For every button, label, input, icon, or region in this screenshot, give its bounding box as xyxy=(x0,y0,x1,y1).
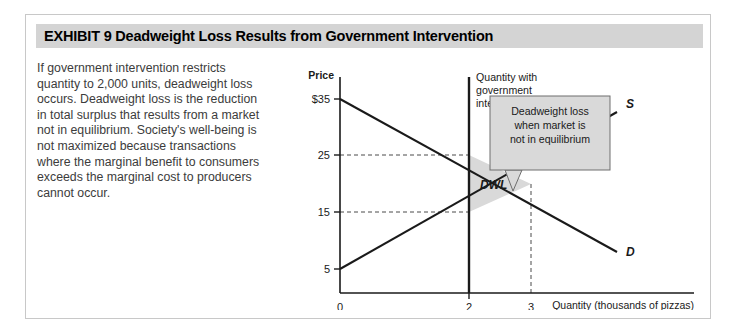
x-tick-label-0: 0 xyxy=(337,301,343,310)
supply-demand-chart: $35 25 15 5 0 2 3 Price Quantity with go… xyxy=(274,55,704,310)
quota-annotation-line2: government xyxy=(476,84,532,96)
demand-curve-label: D xyxy=(626,245,635,259)
exhibit-title-bar: EXHIBIT 9 Deadweight Loss Results from G… xyxy=(36,24,703,48)
exhibit-title: EXHIBIT 9 Deadweight Loss Results from G… xyxy=(36,28,493,44)
x-axis-title: Quantity (thousands of pizzas) xyxy=(552,299,694,310)
exhibit-panel: EXHIBIT 9 Deadweight Loss Results from G… xyxy=(25,14,711,319)
x-tick-label-2: 2 xyxy=(466,301,472,310)
callout-line1: Deadweight loss xyxy=(511,105,589,117)
exhibit-body-text: If government intervention restricts qua… xyxy=(37,61,270,201)
chart-svg: $35 25 15 5 0 2 3 Price Quantity with go… xyxy=(274,55,704,310)
quota-annotation-line1: Quantity with xyxy=(476,71,537,83)
y-tick-label-5: 5 xyxy=(324,263,330,275)
callout-line2: when market is xyxy=(513,119,585,131)
supply-curve-label: S xyxy=(626,97,634,111)
y-tick-label-15: 15 xyxy=(318,206,330,218)
x-tick-label-3: 3 xyxy=(528,301,534,310)
dwl-label: DWL xyxy=(480,178,507,192)
y-tick-label-25: 25 xyxy=(318,149,330,161)
y-axis-title: Price xyxy=(308,69,334,81)
y-tick-label-35: $35 xyxy=(312,93,330,105)
callout-line3: not in equilibrium xyxy=(510,133,590,145)
